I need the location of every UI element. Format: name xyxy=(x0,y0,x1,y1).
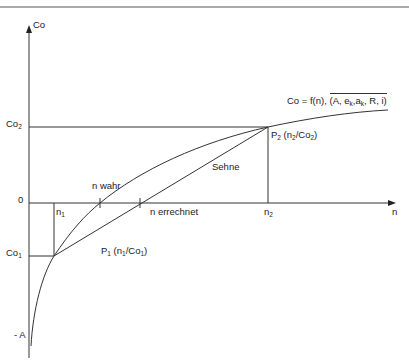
origin-label: 0 xyxy=(18,195,23,205)
sehne-label: Sehne xyxy=(212,162,239,172)
diagram-canvas xyxy=(0,0,409,364)
co1-tick-label: Co1 xyxy=(6,248,22,258)
y-axis-arrow-icon xyxy=(26,25,32,33)
n-errechnet-label: n errechnet xyxy=(150,207,198,217)
co2-tick-label: Co2 xyxy=(6,119,22,129)
y-axis-label: Co xyxy=(33,20,45,30)
secant-line xyxy=(54,127,268,256)
n1-tick-label: n1 xyxy=(56,207,65,217)
function-label: Co = f(n), (A, ek,ak, R, i) xyxy=(287,96,387,106)
p2-label: P2 (n2/Co2) xyxy=(271,130,317,140)
n-wahr-label: n wahr xyxy=(92,181,121,191)
p1-label: P1 (n1/Co1) xyxy=(101,246,147,256)
function-curve xyxy=(31,110,388,346)
minus-a-tick-label: - A xyxy=(14,330,26,340)
x-axis-label: n xyxy=(392,207,397,217)
n2-tick-label: n2 xyxy=(264,207,273,217)
